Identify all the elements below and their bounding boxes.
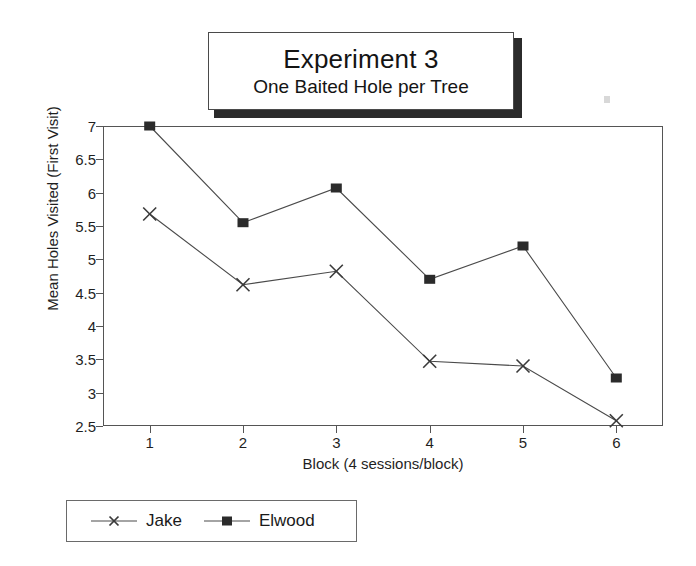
x-tick-mark bbox=[430, 426, 431, 433]
data-point-elwood-block3 bbox=[331, 184, 342, 193]
figure-canvas: Experiment 3 One Baited Hole per Tree 2.… bbox=[0, 0, 696, 566]
x-tick-mark bbox=[523, 426, 524, 433]
x-tick-label: 3 bbox=[316, 434, 356, 451]
data-point-elwood-block1 bbox=[144, 122, 155, 131]
y-tick-mark bbox=[96, 259, 103, 260]
x-tick-label: 2 bbox=[223, 434, 263, 451]
legend-label: Jake bbox=[146, 511, 182, 531]
data-point-elwood-block2 bbox=[238, 218, 249, 227]
x-tick-mark bbox=[150, 426, 151, 433]
x-tick-mark bbox=[336, 426, 337, 433]
y-tick-mark bbox=[96, 126, 103, 127]
legend-label: Elwood bbox=[259, 511, 315, 531]
y-tick-mark bbox=[96, 426, 103, 427]
y-tick-mark bbox=[96, 193, 103, 194]
y-tick-mark bbox=[96, 159, 103, 160]
data-point-elwood-block4 bbox=[424, 275, 435, 284]
data-point-jake-block1 bbox=[143, 208, 156, 221]
x-tick-mark bbox=[616, 426, 617, 433]
x-tick-label: 4 bbox=[410, 434, 450, 451]
legend-cross-glyph bbox=[108, 515, 121, 528]
x-tick-mark bbox=[243, 426, 244, 433]
series-layer bbox=[0, 0, 696, 566]
y-tick-mark bbox=[96, 226, 103, 227]
series-line-jake bbox=[150, 214, 617, 421]
x-tick-label: 1 bbox=[130, 434, 170, 451]
data-point-jake-block2 bbox=[237, 278, 250, 291]
y-tick-mark bbox=[96, 359, 103, 360]
series-line-elwood bbox=[150, 126, 617, 378]
legend-entry-elwood[interactable]: Elwood bbox=[204, 511, 315, 531]
y-tick-mark bbox=[96, 293, 103, 294]
data-point-elwood-block5 bbox=[518, 242, 529, 251]
legend-square-glyph bbox=[222, 517, 232, 526]
y-tick-mark bbox=[96, 393, 103, 394]
data-point-jake-block3 bbox=[330, 265, 343, 278]
square-marker bbox=[204, 513, 250, 529]
legend: JakeElwood bbox=[66, 500, 357, 542]
x-tick-label: 6 bbox=[596, 434, 636, 451]
x-tick-label: 5 bbox=[503, 434, 543, 451]
legend-entry-jake[interactable]: Jake bbox=[91, 511, 182, 531]
data-point-elwood-block6 bbox=[611, 374, 622, 383]
y-tick-mark bbox=[96, 326, 103, 327]
cross-marker bbox=[91, 513, 137, 529]
